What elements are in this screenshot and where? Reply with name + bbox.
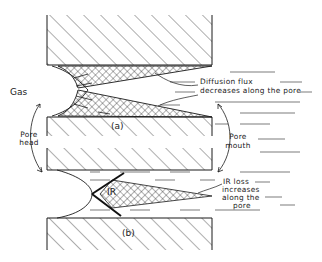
diffusion-flux-label-line2: decreases along the pore bbox=[200, 87, 301, 95]
meniscus-film-b bbox=[57, 170, 212, 218]
electrode-block-a-top bbox=[47, 15, 212, 65]
ir-label: IR bbox=[107, 188, 116, 197]
diffusion-flux-label-line1: Diffusion flux bbox=[200, 78, 253, 86]
electrode-block-a-bottom bbox=[47, 117, 212, 136]
panel-a-label: (a) bbox=[111, 122, 124, 131]
pore-mouth-label-line2: mouth bbox=[224, 142, 252, 150]
pore-mouth-label-line1: Pore bbox=[224, 133, 252, 141]
ir-loss-label-line4: pore bbox=[233, 202, 251, 210]
electrode-block-b-top bbox=[47, 148, 212, 170]
diagram-graphics bbox=[0, 0, 322, 262]
pore-head-label-line2: head bbox=[18, 139, 40, 147]
pore-diagram: Gas Diffusion flux decreases along the p… bbox=[0, 0, 322, 262]
panel-b-label: (b) bbox=[122, 229, 135, 238]
gas-label: Gas bbox=[10, 88, 27, 97]
meniscus-film-a bbox=[52, 66, 212, 117]
